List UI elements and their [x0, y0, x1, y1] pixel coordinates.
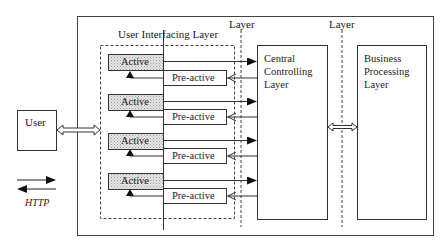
- business-processing-layer-label: Business Processing Layer: [364, 52, 410, 91]
- layer-divider-1-label: Layer: [229, 18, 255, 30]
- active-label-3: Active: [121, 135, 149, 147]
- preactive-label-2: Pre-active: [172, 111, 215, 123]
- active-label-4: Active: [121, 175, 149, 187]
- preactive-label-3: Pre-active: [172, 150, 215, 162]
- active-label-2: Active: [121, 96, 149, 108]
- preactive-label-1: Pre-active: [172, 72, 215, 84]
- user-label: User: [25, 116, 46, 128]
- layer-divider-2-label: Layer: [329, 18, 355, 30]
- central-business-double-arrow: [328, 123, 357, 131]
- central-controlling-layer-label: Central Controlling Layer: [264, 52, 312, 91]
- active-label-1: Active: [121, 56, 149, 68]
- preactive-label-4: Pre-active: [172, 190, 215, 202]
- architecture-diagram: [0, 0, 446, 245]
- http-legend-arrows: [17, 176, 56, 193]
- user-interfacing-layer-title: User Interfacing Layer: [118, 28, 218, 40]
- http-legend-label: HTTP: [25, 197, 49, 209]
- user-ui-double-arrow: [57, 125, 100, 135]
